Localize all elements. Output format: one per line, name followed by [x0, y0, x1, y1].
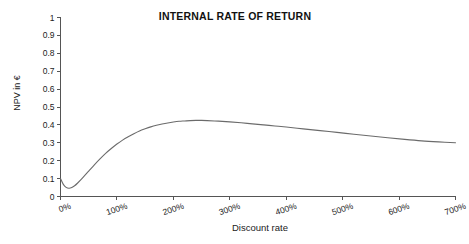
y-tick-label: 0 [50, 192, 55, 202]
y-tick-label: 0.3 [43, 138, 55, 148]
plot-area: 00.10.20.30.40.50.60.70.80.91 0%100%200%… [0, 0, 469, 244]
x-tick-label: 300% [218, 201, 242, 217]
y-axis-ticks: 00.10.20.30.40.50.60.70.80.91 [43, 13, 61, 202]
npv-curve [61, 120, 456, 188]
y-tick-label: 0.1 [43, 174, 55, 184]
x-tick-label: 700% [443, 201, 467, 217]
x-tick-label: 400% [274, 201, 298, 217]
x-tick-label: 600% [387, 201, 411, 217]
x-tick-label: 500% [330, 201, 354, 217]
x-tick-label: 200% [161, 201, 185, 217]
x-tick-label: 100% [105, 201, 129, 217]
y-tick-label: 0.7 [43, 66, 55, 76]
y-tick-label: 0.8 [43, 48, 55, 58]
x-axis-ticks: 0%100%200%300%400%500%600%700% [57, 197, 467, 218]
y-tick-label: 0.4 [43, 120, 55, 130]
y-tick-label: 0.2 [43, 156, 55, 166]
y-tick-label: 0.5 [43, 102, 55, 112]
y-tick-label: 0.6 [43, 84, 55, 94]
chart-figure: INTERNAL RATE OF RETURN NPV in € Discoun… [0, 0, 469, 244]
y-tick-label: 1 [50, 13, 55, 23]
y-tick-label: 0.9 [43, 30, 55, 40]
x-tick-label: 0% [57, 201, 72, 214]
